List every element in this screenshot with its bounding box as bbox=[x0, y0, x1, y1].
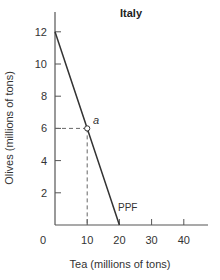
y-tick-label: 12 bbox=[35, 26, 47, 38]
ticks: 2468101210203040 bbox=[35, 26, 190, 246]
chart-title: Italy bbox=[120, 7, 143, 19]
dashed-guides bbox=[55, 128, 87, 225]
x-tick-label: 10 bbox=[81, 234, 93, 246]
origin-label: 0 bbox=[40, 234, 46, 246]
axes bbox=[55, 12, 208, 225]
ppf-label: PPF bbox=[118, 202, 137, 213]
point-a-label: a bbox=[93, 114, 99, 126]
x-tick-label: 30 bbox=[145, 234, 157, 246]
y-tick-label: 6 bbox=[41, 122, 47, 134]
y-axis-title: Olives (millions of tons) bbox=[3, 71, 15, 185]
x-axis-title: Tea (millions of tons) bbox=[70, 258, 171, 270]
x-tick-label: 40 bbox=[178, 234, 190, 246]
y-tick-label: 8 bbox=[41, 90, 47, 102]
y-tick-label: 4 bbox=[41, 155, 47, 167]
ppf-chart: 2468101210203040 Italy Tea (millions of … bbox=[0, 0, 220, 280]
points bbox=[85, 126, 90, 131]
point-a-marker bbox=[85, 126, 90, 131]
y-tick-label: 2 bbox=[41, 187, 47, 199]
x-tick-label: 20 bbox=[113, 234, 125, 246]
y-tick-label: 10 bbox=[35, 58, 47, 70]
